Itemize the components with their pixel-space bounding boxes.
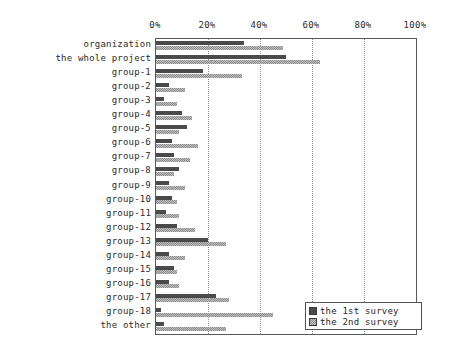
bar-group-12-series-2 (156, 228, 195, 232)
category-label-group-15: group-15 (106, 265, 151, 274)
x-tick-20: 20% (198, 20, 215, 30)
category-label-group-13: group-13 (106, 237, 151, 246)
bar-group-4-series-2 (156, 116, 192, 120)
bar-group-17-series-1 (156, 294, 216, 298)
bar-group-11-series-2 (156, 214, 179, 218)
gridline-60 (312, 39, 313, 334)
bar-group-5-series-1 (156, 125, 187, 129)
bar-group-3-series-2 (156, 102, 177, 106)
bar-chart: 0%20%40%60%80%100% organizationthe whole… (0, 0, 449, 349)
x-tick-0: 0% (149, 20, 160, 30)
bar-group-1-series-1 (156, 69, 203, 73)
category-label-the-other: the other (100, 321, 151, 330)
chart-legend: the 1st survey the 2nd survey (305, 302, 422, 330)
bar-group-18-series-2 (156, 313, 273, 317)
bar-group-14-series-1 (156, 252, 169, 256)
bar-the-other-series-2 (156, 327, 226, 331)
bar-group-15-series-1 (156, 266, 174, 270)
category-label-group-9: group-9 (112, 181, 151, 190)
bar-group-9-series-1 (156, 181, 169, 185)
legend-label-1st-survey: the 1st survey (320, 306, 399, 316)
bar-group-2-series-1 (156, 83, 169, 87)
category-label-group-4: group-4 (112, 110, 151, 119)
bar-organization-series-2 (156, 46, 283, 50)
x-tick-40: 40% (250, 20, 267, 30)
bar-group-16-series-1 (156, 280, 169, 284)
bar-group-18-series-1 (156, 308, 161, 312)
x-tick-60: 60% (302, 20, 319, 30)
bar-group-4-series-1 (156, 111, 182, 115)
gridline-40 (260, 39, 261, 334)
bar-group-10-series-1 (156, 196, 172, 200)
bar-group-9-series-2 (156, 186, 185, 190)
bar-group-6-series-2 (156, 144, 198, 148)
bar-group-7-series-2 (156, 158, 190, 162)
gridline-20 (208, 39, 209, 334)
bar-group-13-series-1 (156, 238, 208, 242)
category-label-column: organizationthe whole projectgroup-1grou… (0, 38, 151, 333)
gridline-80 (364, 39, 365, 334)
plot-area (155, 38, 417, 335)
bar-group-14-series-2 (156, 256, 185, 260)
bar-group-10-series-2 (156, 200, 177, 204)
category-label-group-5: group-5 (112, 124, 151, 133)
category-label-group-3: group-3 (112, 96, 151, 105)
bar-group-11-series-1 (156, 210, 166, 214)
bar-group-15-series-2 (156, 270, 177, 274)
bar-group-12-series-1 (156, 224, 177, 228)
legend-item-series-1: the 1st survey (309, 305, 418, 316)
bar-group-8-series-2 (156, 172, 174, 176)
bar-the-other-series-1 (156, 322, 164, 326)
bar-group-3-series-1 (156, 97, 164, 101)
category-label-the-whole-project: the whole project (55, 54, 151, 63)
bar-group-8-series-1 (156, 167, 179, 171)
category-label-group-2: group-2 (112, 82, 151, 91)
category-label-group-8: group-8 (112, 166, 151, 175)
category-label-group-16: group-16 (106, 279, 151, 288)
category-label-group-1: group-1 (112, 68, 151, 77)
bar-group-2-series-2 (156, 88, 185, 92)
legend-swatch-1st-survey (309, 307, 317, 315)
bar-group-7-series-1 (156, 153, 174, 157)
category-label-group-18: group-18 (106, 307, 151, 316)
bar-group-17-series-2 (156, 298, 229, 302)
bar-organization-series-1 (156, 41, 244, 45)
category-label-group-11: group-11 (106, 209, 151, 218)
bar-group-13-series-2 (156, 242, 226, 246)
legend-item-series-2: the 2nd survey (309, 316, 418, 327)
category-label-group-6: group-6 (112, 138, 151, 147)
category-label-group-12: group-12 (106, 223, 151, 232)
category-label-group-17: group-17 (106, 293, 151, 302)
bar-group-16-series-2 (156, 284, 179, 288)
category-label-organization: organization (84, 40, 151, 49)
x-tick-80: 80% (354, 20, 371, 30)
x-tick-100: 100% (404, 20, 427, 30)
category-label-group-14: group-14 (106, 251, 151, 260)
bar-group-1-series-2 (156, 74, 242, 78)
bar-group-6-series-1 (156, 139, 172, 143)
bar-the-whole-project-series-2 (156, 60, 320, 64)
legend-label-2nd-survey: the 2nd survey (320, 317, 399, 327)
bar-the-whole-project-series-1 (156, 55, 286, 59)
category-label-group-10: group-10 (106, 195, 151, 204)
legend-swatch-2nd-survey (309, 318, 317, 326)
bar-group-5-series-2 (156, 130, 179, 134)
category-label-group-7: group-7 (112, 152, 151, 161)
